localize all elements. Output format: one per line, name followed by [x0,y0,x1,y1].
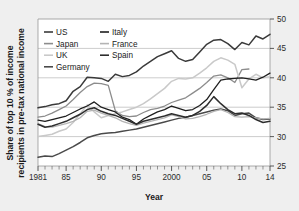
x-tick-label-85: 85 [62,173,72,182]
legend-label-italy: Italy [112,28,128,37]
x-tick-label-05: 05 [202,173,212,182]
y-tick-label-30: 30 [277,133,287,142]
y-tick-label-40: 40 [277,74,287,83]
legend-label-japan: Japan [56,40,79,49]
y-tick-label-25: 25 [277,162,287,171]
x-tick-label-95: 95 [132,173,142,182]
y-tick-label-50: 50 [277,15,287,24]
y-axis-title-line2: recipients in pre-tax national income [16,28,26,178]
legend-label-germany: Germany [56,63,91,72]
x-axis-title: Year [145,192,164,202]
legend-label-uk: UK [56,51,68,60]
y-tick-label-45: 45 [277,44,287,53]
legend-label-spain: Spain [112,51,133,60]
legend-label-us: US [56,28,68,37]
x-tick-label-90: 90 [97,173,107,182]
y-tick-label-35: 35 [277,103,287,112]
x-tick-label-2000: 2000 [162,173,181,182]
chart-container: 253035404550 19818590952000051014 Year S… [0,0,299,211]
line-chart: 253035404550 19818590952000051014 Year S… [0,0,299,211]
x-tick-label-1981: 1981 [29,173,48,182]
x-tick-label-14: 14 [265,173,275,182]
legend-label-france: France [112,40,138,49]
y-axis-title-line1: Share of top 10 % of income [5,45,15,160]
x-tick-label-10: 10 [237,173,247,182]
